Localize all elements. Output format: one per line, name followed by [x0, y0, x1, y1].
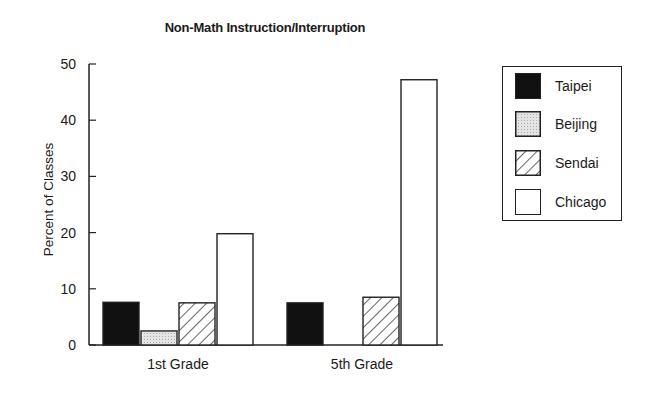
- legend-label: Sendai: [555, 155, 599, 171]
- legend-item-chicago: Chicago: [515, 188, 606, 216]
- legend-item-sendai: Sendai: [515, 149, 599, 177]
- swatch-hatch-icon: [515, 150, 541, 176]
- bars: [103, 80, 437, 345]
- y-tick-label: 10: [60, 281, 76, 297]
- legend-item-beijing: Beijing: [515, 110, 597, 138]
- y-tick-label: 50: [60, 56, 76, 72]
- y-tick-label: 0: [68, 337, 76, 353]
- y-tick-label: 30: [60, 168, 76, 184]
- legend-label: Beijing: [555, 116, 597, 132]
- bar-taipei-2: [287, 303, 323, 345]
- y-tick-label: 20: [60, 225, 76, 241]
- swatch-solid-icon: [515, 73, 541, 99]
- legend: Taipei Beijing Sendai Chicago: [502, 66, 622, 221]
- bar-chicago-1: [217, 234, 253, 345]
- y-tick-label: 40: [60, 112, 76, 128]
- bar-sendai-2: [363, 297, 399, 345]
- bar-chicago-2: [401, 80, 437, 345]
- x-category-label: 5th Grade: [331, 356, 393, 372]
- swatch-stipple-icon: [515, 111, 541, 137]
- legend-item-taipei: Taipei: [515, 72, 592, 100]
- bar-sendai-1: [179, 303, 215, 345]
- bar-beijing-1: [141, 331, 177, 345]
- x-category-label: 1st Grade: [147, 356, 209, 372]
- swatch-white-icon: [515, 189, 541, 215]
- legend-label: Taipei: [555, 78, 592, 94]
- legend-label: Chicago: [555, 194, 606, 210]
- bar-taipei-1: [103, 302, 139, 345]
